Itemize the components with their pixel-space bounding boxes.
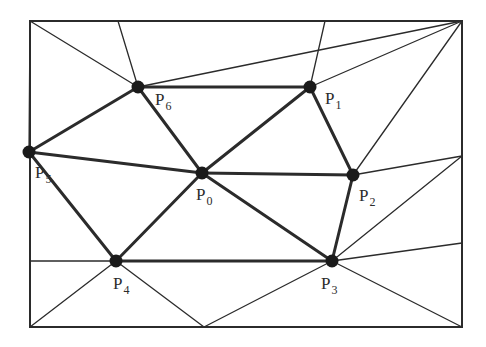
vertex-marker-p1: [304, 81, 317, 94]
edge-P2-right1: [353, 156, 462, 175]
edge-P4-P0: [116, 173, 202, 261]
vertex-marker-p6: [132, 81, 145, 94]
vertex-label-p2: P2: [359, 186, 375, 209]
vertex-label-p6: P6: [155, 90, 171, 113]
vertex-label-p4: P4: [113, 274, 129, 297]
vertex-marker-p0: [196, 167, 209, 180]
vertex-label-p3: P3: [321, 274, 337, 297]
vertex-labels-group: P0P1P2P3P4P5P6: [35, 89, 375, 297]
vertex-label-subscript: 4: [123, 283, 129, 297]
vertex-label-p1: P1: [325, 89, 341, 112]
edge-P4-bottomleft: [30, 261, 116, 327]
edge-P0-P1: [202, 87, 310, 173]
vertex-label-p0: P0: [196, 185, 212, 208]
vertex-label-subscript: 3: [331, 283, 337, 297]
edge-P3-bottomright: [332, 261, 462, 327]
edge-P5-P6: [29, 87, 138, 152]
triangulation-mesh-figure: P0P1P2P3P4P5P6: [0, 0, 486, 347]
vertex-marker-p5: [23, 146, 36, 159]
edge-P6-topright: [138, 21, 462, 87]
vertex-marker-p2: [347, 169, 360, 182]
vertex-marker-p4: [110, 255, 123, 268]
vertex-label-subscript: 1: [335, 98, 341, 112]
vertex-label-subscript: 5: [45, 172, 51, 186]
vertex-label-subscript: 2: [369, 195, 375, 209]
diagram-canvas: P0P1P2P3P4P5P6: [0, 0, 486, 347]
edge-P3-bottom1: [204, 261, 332, 327]
thick-edges-group: [29, 87, 353, 261]
edge-P3-P2: [332, 175, 353, 261]
edge-topleft-P6: [30, 21, 138, 87]
vertex-marker-p3: [326, 255, 339, 268]
vertex-label-p5: P5: [35, 163, 51, 186]
vertex-label-subscript: 6: [165, 99, 171, 113]
edge-P0-P3: [202, 173, 332, 261]
edge-P2-P0: [202, 173, 353, 175]
edge-top2-P1: [310, 21, 325, 87]
edge-P0-P5: [29, 152, 202, 173]
vertex-label-subscript: 0: [206, 194, 212, 208]
